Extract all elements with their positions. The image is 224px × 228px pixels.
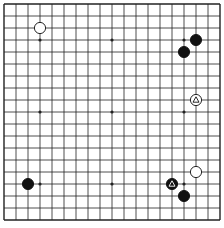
star-point	[182, 182, 185, 185]
black-stone[interactable]	[190, 34, 201, 45]
black-stone[interactable]	[178, 190, 189, 201]
star-point	[182, 110, 185, 113]
white-stone[interactable]	[190, 166, 201, 177]
black-stone[interactable]	[178, 46, 189, 57]
star-point	[110, 38, 113, 41]
black-stone[interactable]	[22, 178, 33, 189]
star-point	[182, 38, 185, 41]
go-board[interactable]	[0, 0, 224, 228]
white-stone[interactable]	[34, 22, 45, 33]
star-point	[38, 38, 41, 41]
star-point	[110, 110, 113, 113]
star-point	[38, 110, 41, 113]
star-point	[110, 182, 113, 185]
star-point	[38, 182, 41, 185]
